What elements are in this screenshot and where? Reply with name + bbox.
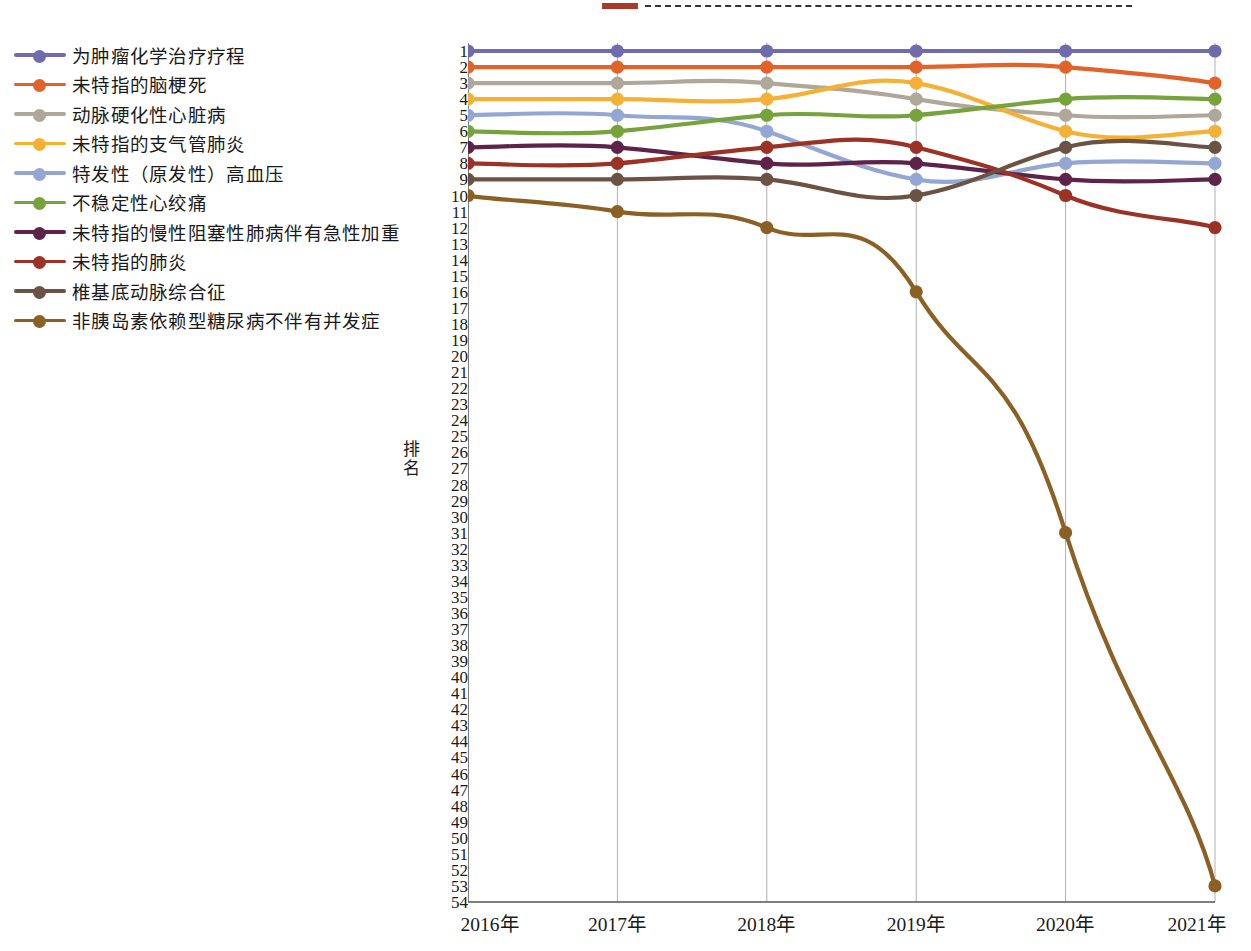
series-point[interactable] xyxy=(910,285,923,298)
series-point[interactable] xyxy=(760,60,773,73)
series-point[interactable] xyxy=(468,93,475,106)
series-point[interactable] xyxy=(760,77,773,90)
series-point[interactable] xyxy=(611,125,624,138)
series-point[interactable] xyxy=(760,173,773,186)
series-point[interactable] xyxy=(760,109,773,122)
x-axis-tick-label: 2020年 xyxy=(1036,908,1095,937)
series-point[interactable] xyxy=(910,109,923,122)
series-point[interactable] xyxy=(468,173,475,186)
plot-area: 排名 1234567891011121314151617181920212223… xyxy=(0,0,1251,951)
series-point[interactable] xyxy=(468,44,475,57)
series-point[interactable] xyxy=(1059,109,1072,122)
series-point[interactable] xyxy=(611,205,624,218)
series-point[interactable] xyxy=(1208,125,1221,138)
series-point[interactable] xyxy=(468,60,475,73)
series-point[interactable] xyxy=(1059,125,1072,138)
series-point[interactable] xyxy=(1208,221,1221,234)
x-axis-tick-label: 2018年 xyxy=(737,908,796,937)
series-point[interactable] xyxy=(910,60,923,73)
series-point[interactable] xyxy=(910,189,923,202)
series-point[interactable] xyxy=(611,157,624,170)
series-point[interactable] xyxy=(611,173,624,186)
x-axis-tick-label: 2017年 xyxy=(588,908,647,937)
series-point[interactable] xyxy=(760,125,773,138)
series-point[interactable] xyxy=(1208,157,1221,170)
series-group xyxy=(468,141,1222,202)
series-line[interactable] xyxy=(468,65,1215,83)
series-point[interactable] xyxy=(910,93,923,106)
chart-canvas xyxy=(468,0,1251,951)
series-group xyxy=(468,140,1222,235)
series-point[interactable] xyxy=(1208,93,1221,106)
x-axis-tick-label: 2021年 xyxy=(1168,908,1227,937)
series-point[interactable] xyxy=(760,93,773,106)
series-point[interactable] xyxy=(760,141,773,154)
series-point[interactable] xyxy=(611,60,624,73)
series-point[interactable] xyxy=(910,77,923,90)
x-axis-tick-label: 2016年 xyxy=(461,908,520,937)
series-point[interactable] xyxy=(1208,173,1221,186)
series-point[interactable] xyxy=(611,44,624,57)
series-point[interactable] xyxy=(611,77,624,90)
series-point[interactable] xyxy=(611,141,624,154)
series-point[interactable] xyxy=(760,157,773,170)
series-point[interactable] xyxy=(1059,173,1072,186)
series-point[interactable] xyxy=(1059,157,1072,170)
series-point[interactable] xyxy=(1059,189,1072,202)
series-group xyxy=(468,44,1222,57)
series-group xyxy=(468,189,1222,893)
series-point[interactable] xyxy=(1059,60,1072,73)
chart-page: 为肿瘤化学治疗疗程未特指的脑梗死动脉硬化性心脏病未特指的支气管肺炎特发性（原发性… xyxy=(0,0,1251,951)
series-point[interactable] xyxy=(1208,109,1221,122)
series-point[interactable] xyxy=(910,157,923,170)
series-point[interactable] xyxy=(1208,77,1221,90)
series-point[interactable] xyxy=(910,44,923,57)
series-point[interactable] xyxy=(760,221,773,234)
series-point[interactable] xyxy=(611,109,624,122)
series-point[interactable] xyxy=(1059,44,1072,57)
series-point[interactable] xyxy=(1208,141,1221,154)
series-point[interactable] xyxy=(468,77,475,90)
x-axis-tick-label: 2019年 xyxy=(887,908,946,937)
series-line[interactable] xyxy=(468,140,1215,228)
series-point[interactable] xyxy=(468,189,475,202)
series-line[interactable] xyxy=(468,196,1215,886)
series-point[interactable] xyxy=(910,173,923,186)
series-point[interactable] xyxy=(611,93,624,106)
series-point[interactable] xyxy=(468,125,475,138)
series-point[interactable] xyxy=(1059,93,1072,106)
series-line[interactable] xyxy=(468,141,1215,198)
series-point[interactable] xyxy=(468,141,475,154)
x-axis-tick-labels: 2016年2017年2018年2019年2020年2021年 xyxy=(0,908,1251,948)
series-point[interactable] xyxy=(1059,141,1072,154)
series-point[interactable] xyxy=(910,141,923,154)
series-point[interactable] xyxy=(1059,526,1072,539)
series-point[interactable] xyxy=(1208,879,1221,892)
series-point[interactable] xyxy=(1208,44,1221,57)
y-axis-title: 排名 xyxy=(398,440,422,478)
series-point[interactable] xyxy=(760,44,773,57)
series-point[interactable] xyxy=(468,157,475,170)
series-group xyxy=(468,77,1222,138)
y-axis-tick-labels: 1234567891011121314151617181920212223242… xyxy=(420,0,468,951)
series-point[interactable] xyxy=(468,109,475,122)
